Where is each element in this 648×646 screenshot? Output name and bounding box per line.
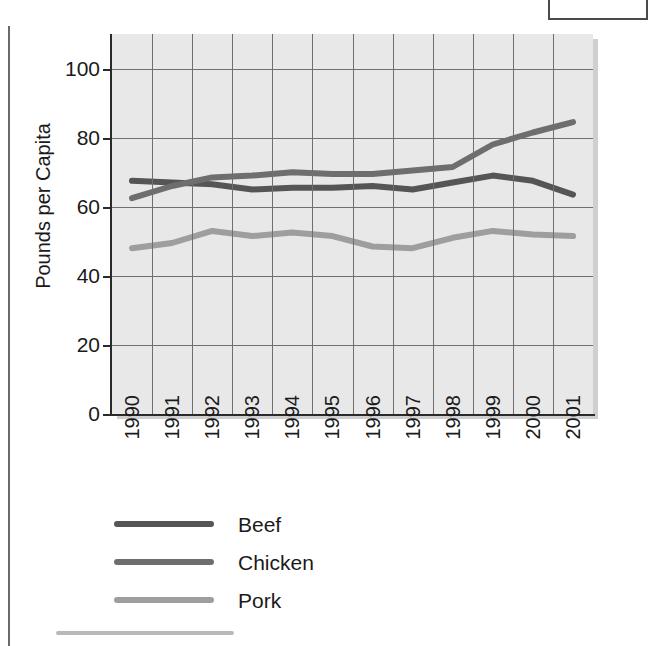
y-axis-tick-mark: [103, 207, 111, 209]
y-axis-tick-label: 100: [40, 58, 100, 79]
x-gridline: [353, 34, 354, 414]
x-gridline: [192, 34, 193, 414]
y-axis-tick-mark: [103, 345, 111, 347]
x-gridline: [152, 34, 153, 414]
x-axis-tick-label: 2000: [523, 395, 543, 465]
legend-item-label: Chicken: [238, 552, 314, 573]
y-axis-tick-labels: 020406080100: [36, 0, 100, 440]
x-axis-tick-label: 1997: [403, 395, 423, 465]
x-gridline: [553, 34, 554, 414]
legend-item: Beef: [114, 505, 434, 543]
x-gridline: [513, 34, 514, 414]
x-axis-tick-label: 1996: [363, 395, 383, 465]
plot-area: [112, 34, 593, 414]
x-axis-tick-label: 1992: [202, 395, 222, 465]
y-axis-tick-mark: [103, 414, 111, 416]
legend-swatch-icon: [114, 597, 214, 603]
y-axis-tick-mark: [103, 276, 111, 278]
x-axis-tick-label: 1999: [483, 395, 503, 465]
legend-item: Chicken: [114, 543, 434, 581]
legend-item-label: Beef: [238, 514, 281, 535]
y-axis-tick-label: 60: [40, 196, 100, 217]
x-gridline: [232, 34, 233, 414]
y-axis-tick-label: 0: [40, 403, 100, 424]
x-axis-tick-label: 1993: [242, 395, 262, 465]
x-axis-tick-labels: 1990199119921993199419951996199719981999…: [112, 420, 593, 500]
chart-legend: BeefChickenPork: [114, 505, 434, 619]
legend-item: Pork: [114, 581, 434, 619]
x-gridline: [393, 34, 394, 414]
legend-swatch-icon: [114, 521, 214, 527]
y-axis-tick-mark: [103, 138, 111, 140]
y-axis-tick-label: 40: [40, 265, 100, 286]
x-gridline: [272, 34, 273, 414]
x-axis-tick-label: 1990: [122, 395, 142, 465]
x-axis-tick-label: 1998: [443, 395, 463, 465]
x-axis-tick-label: 1994: [282, 395, 302, 465]
legend-item-label: Pork: [238, 590, 281, 611]
x-axis-tick-label: 1995: [322, 395, 342, 465]
x-gridline: [312, 34, 313, 414]
legend-swatch-icon: [114, 559, 214, 565]
y-axis-line: [110, 34, 112, 415]
y-axis-tick-label: 20: [40, 334, 100, 355]
x-axis-tick-label: 2001: [563, 395, 583, 465]
x-gridline: [473, 34, 474, 414]
y-axis-tick-label: 80: [40, 127, 100, 148]
x-gridline: [433, 34, 434, 414]
x-axis-tick-label: 1991: [162, 395, 182, 465]
y-axis-tick-mark: [103, 69, 111, 71]
